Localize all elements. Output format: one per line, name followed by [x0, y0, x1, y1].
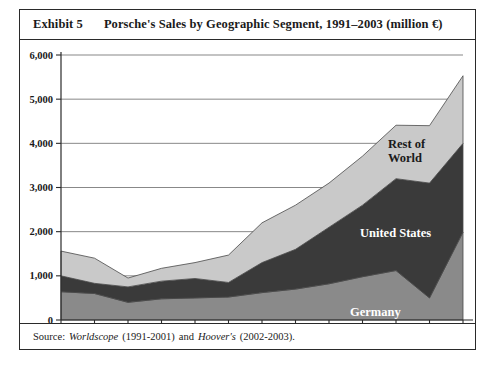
source-note: Source: Worldscope (1991-2001) and Hoove… [20, 324, 475, 349]
y-tick-label: 1,000 [29, 270, 53, 281]
exhibit-title-bar: Exhibit 5 Porsche's Sales by Geographic … [20, 10, 475, 39]
y-tick-label: 6,000 [29, 50, 53, 61]
source-conjunction: and [179, 331, 194, 342]
series-annotation-rest-of-world: Rest ofWorld [388, 137, 426, 165]
chart-plot-area: 01,0002,0003,0004,0005,0006,000199119921… [20, 40, 475, 325]
source-item-1: Worldscope [69, 331, 118, 342]
exhibit-title: Porsche's Sales by Geographic Segment, 1… [104, 17, 443, 32]
series-annotation-united-states: United States [360, 226, 431, 240]
y-tick-label: 5,000 [29, 94, 53, 105]
stacked-area-chart: 01,0002,0003,0004,0005,0006,000199119921… [20, 40, 477, 325]
source-prefix: Source: [33, 331, 65, 342]
exhibit-frame: Exhibit 5 Porsche's Sales by Geographic … [19, 9, 476, 350]
source-range-2: (2002-2003). [240, 331, 295, 342]
source-range-1: (1991-2001) [122, 331, 175, 342]
series-annotation-germany: Germany [350, 305, 401, 319]
y-tick-label: 3,000 [29, 182, 53, 193]
y-tick-label: 2,000 [29, 226, 53, 237]
exhibit-number: Exhibit 5 [33, 17, 83, 32]
y-tick-label: 4,000 [29, 138, 53, 149]
source-item-2: Hoover's [198, 331, 236, 342]
